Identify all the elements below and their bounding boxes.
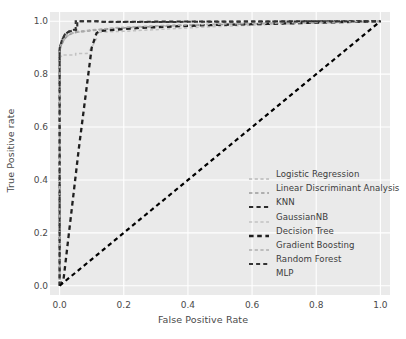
x-tick-label: 0.2: [109, 300, 139, 310]
legend-line-swatch: [248, 254, 270, 264]
legend-item[interactable]: Decision Tree: [248, 224, 398, 238]
legend-line-swatch: [248, 268, 270, 278]
legend-item[interactable]: Gradient Boosting: [248, 238, 398, 252]
legend-item[interactable]: Logistic Regression: [248, 167, 398, 181]
legend: Logistic RegressionLinear Discriminant A…: [248, 165, 398, 283]
x-tick-label: 0.8: [301, 300, 331, 310]
legend-label: Linear Discriminant Analysis: [276, 183, 399, 193]
y-tick-label: 0.6: [22, 122, 48, 132]
legend-line-swatch: [248, 226, 270, 236]
legend-line-swatch: [248, 212, 270, 222]
legend-label: KNN: [276, 197, 295, 207]
legend-item[interactable]: GaussianNB: [248, 210, 398, 224]
legend-label: MLP: [276, 268, 294, 278]
legend-label: Gradient Boosting: [276, 240, 355, 250]
legend-item[interactable]: Random Forest: [248, 252, 398, 266]
x-axis-tick-labels: 0.00.20.40.60.81.0: [0, 300, 406, 314]
y-axis-tick-labels: 0.00.20.40.60.81.0: [18, 0, 48, 339]
y-tick-label: 0.8: [22, 69, 48, 79]
legend-line-swatch: [248, 169, 270, 179]
legend-label: Logistic Regression: [276, 169, 359, 179]
y-tick-label: 1.0: [22, 16, 48, 26]
x-tick-label: 0.4: [173, 300, 203, 310]
x-tick-label: 0.6: [237, 300, 267, 310]
legend-label: Random Forest: [276, 254, 341, 264]
y-tick-label: 0.4: [22, 175, 48, 185]
y-tick-label: 0.2: [22, 228, 48, 238]
x-tick-label: 0.0: [45, 300, 75, 310]
y-axis-label: True Positive rate: [6, 108, 17, 192]
legend-item[interactable]: Linear Discriminant Analysis: [248, 181, 398, 195]
x-tick-label: 1.0: [365, 300, 395, 310]
roc-curve-figure: True Positive rate 0.00.20.40.60.81.0 0.…: [0, 0, 406, 339]
legend-line-swatch: [248, 183, 270, 193]
legend-label: GaussianNB: [276, 212, 328, 222]
legend-line-swatch: [248, 240, 270, 250]
legend-item[interactable]: KNN: [248, 195, 398, 209]
legend-line-swatch: [248, 197, 270, 207]
legend-label: Decision Tree: [276, 226, 334, 236]
x-axis-label: False Positive Rate: [0, 314, 406, 325]
y-tick-label: 0.0: [22, 281, 48, 291]
legend-item[interactable]: MLP: [248, 266, 398, 280]
